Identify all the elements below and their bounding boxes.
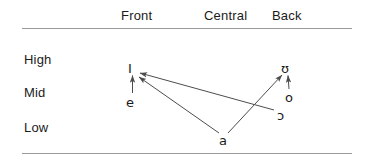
- arrow-layer: [0, 0, 365, 164]
- arrow-o-to-upsilon: [288, 76, 289, 90]
- arrow-a-to-i: [139, 77, 219, 133]
- vowel-symbol-front-mid: e: [126, 96, 134, 109]
- vowel-symbol-central-low: a: [219, 134, 227, 147]
- vowel-symbol-back-low: ɔ: [277, 109, 284, 122]
- vowel-symbol-front-high: I: [128, 62, 132, 75]
- arrow-a-to-upsilon: [228, 75, 282, 133]
- vowel-symbol-back-high: ʊ: [281, 62, 289, 75]
- vowel-symbol-back-mid: o: [285, 91, 293, 104]
- vowel-chart: Front Central Back High Mid Low I e ʊ o …: [0, 0, 365, 164]
